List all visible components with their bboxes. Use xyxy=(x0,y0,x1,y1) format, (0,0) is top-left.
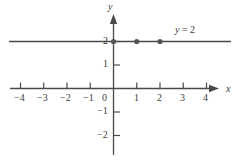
y-tick-label-1: 1 xyxy=(103,59,108,69)
x-axis-arrowhead xyxy=(209,85,219,92)
x-tick-label-2: 2 xyxy=(157,93,162,103)
x-tick-label-1: 1 xyxy=(134,93,139,103)
x-tick-label--4: −4 xyxy=(14,93,25,103)
data-point-0-2 xyxy=(111,39,116,44)
y-axis-label: y xyxy=(108,2,112,12)
x-tick-label--1: −1 xyxy=(83,93,94,103)
y-axis-group xyxy=(110,14,117,155)
y-tick-label--2: −2 xyxy=(97,130,108,140)
x-tick-label-3: 3 xyxy=(180,93,185,103)
series-label-y-equals-2: y = 2 xyxy=(175,25,195,35)
y-tick-label-2: 2 xyxy=(103,36,108,46)
graph-figure: −4 −3 −2 −1 1 2 3 4 0 2 1 −1 −2 y x y = … xyxy=(0,0,239,162)
data-point-1-2 xyxy=(134,39,139,44)
origin-label: 0 xyxy=(102,93,107,103)
y-tick-label--1: −1 xyxy=(97,106,108,116)
data-point-2-2 xyxy=(157,39,162,44)
x-axis-label: x xyxy=(226,84,230,94)
y-axis-arrowhead xyxy=(110,14,117,24)
x-tick-label-4: 4 xyxy=(203,93,208,103)
x-tick-label--2: −2 xyxy=(60,93,71,103)
series-label-rhs: 2 xyxy=(190,24,195,35)
series-label-operator: = xyxy=(179,24,190,35)
coordinate-plane-svg xyxy=(0,0,239,162)
x-tick-label--3: −3 xyxy=(37,93,48,103)
